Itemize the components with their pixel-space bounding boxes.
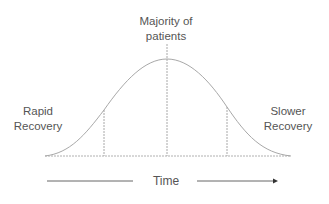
- rapid-label-line2: Recovery: [14, 119, 63, 134]
- peak-label-line1: Majority of: [139, 14, 192, 29]
- arrow-head-icon: [273, 179, 278, 184]
- rapid-label-line1: Rapid: [14, 104, 63, 119]
- bell-curve: [45, 59, 291, 156]
- peak-label: Majority of patients: [139, 14, 192, 44]
- time-axis-label: Time: [153, 174, 179, 188]
- slower-label-line2: Recovery: [264, 119, 313, 134]
- slower-label-line1: Slower: [264, 104, 313, 119]
- rapid-recovery-label: Rapid Recovery: [14, 104, 63, 134]
- slower-recovery-label: Slower Recovery: [264, 104, 313, 134]
- recovery-time-diagram: Majority of patients Rapid Recovery Slow…: [0, 0, 329, 204]
- peak-label-line2: patients: [139, 29, 192, 44]
